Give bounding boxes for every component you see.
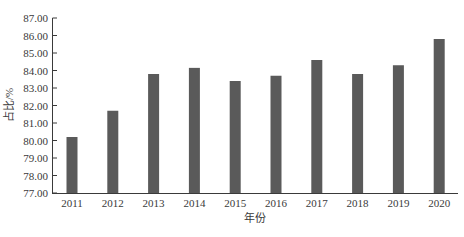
bar-chart: 77.0078.0079.0080.0081.0082.0083.0084.00… <box>0 0 464 237</box>
x-tick-label: 2020 <box>428 197 451 209</box>
x-axis-labels: 2011201220132014201520162017201820192020 <box>61 197 450 209</box>
x-tick-label: 2019 <box>387 197 410 209</box>
x-tick-label: 2017 <box>306 197 329 209</box>
bar-2012 <box>107 111 118 193</box>
bar-2013 <box>148 74 159 193</box>
y-tick-label: 82.00 <box>23 100 48 112</box>
y-tick-label: 80.00 <box>23 135 48 147</box>
x-tick-label: 2018 <box>347 197 370 209</box>
x-axis-title: 年份 <box>244 211 266 224</box>
bar-2014 <box>189 68 200 193</box>
bars <box>67 39 445 193</box>
y-axis-ticks: 77.0078.0079.0080.0081.0082.0083.0084.00… <box>23 12 57 199</box>
y-tick-label: 86.00 <box>23 30 48 42</box>
x-tick-label: 2011 <box>61 197 83 209</box>
x-tick-label: 2015 <box>224 197 247 209</box>
y-tick-label: 87.00 <box>23 12 48 24</box>
bar-2011 <box>67 137 78 193</box>
y-tick-label: 85.00 <box>23 47 48 59</box>
bar-2020 <box>434 39 445 193</box>
x-tick-label: 2014 <box>183 197 206 209</box>
y-tick-label: 78.00 <box>23 170 48 182</box>
y-tick-label: 84.00 <box>23 65 48 77</box>
bar-2017 <box>311 60 322 193</box>
y-axis-title: 占比/% <box>2 88 15 122</box>
y-tick-label: 83.00 <box>23 82 48 94</box>
bar-2019 <box>393 65 404 193</box>
x-tick-label: 2012 <box>102 197 124 209</box>
bar-2016 <box>271 76 282 193</box>
y-tick-label: 77.00 <box>23 187 48 199</box>
y-tick-label: 81.00 <box>23 117 48 129</box>
bar-2018 <box>352 74 363 193</box>
x-tick-label: 2016 <box>265 197 288 209</box>
x-tick-label: 2013 <box>143 197 166 209</box>
bar-2015 <box>230 81 241 193</box>
y-tick-label: 79.00 <box>23 152 48 164</box>
